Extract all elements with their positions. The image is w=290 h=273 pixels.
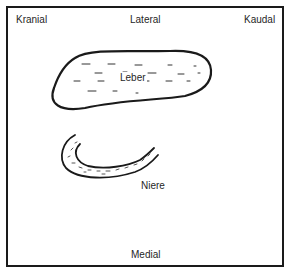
label-leber: Leber (119, 72, 147, 84)
label-niere: Niere (141, 180, 165, 192)
organ-drawing (0, 0, 290, 273)
kidney-shape (62, 135, 158, 178)
